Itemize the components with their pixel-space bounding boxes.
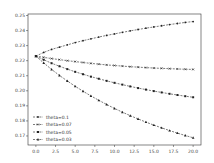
y-tick-label: 0.23 [15, 43, 25, 48]
y-tick-label: 0.19 [15, 103, 25, 108]
y-tick-label: 0.22 [15, 58, 25, 63]
legend-label: theta=0.1 [46, 115, 69, 120]
x-tick-label: 12.5 [129, 149, 139, 154]
y-tick-label: 0.21 [15, 73, 25, 78]
y-axis: 0.170.180.190.200.210.220.230.240.25 [15, 13, 28, 138]
x-tick-label: 0.0 [32, 149, 39, 154]
line-chart: 0.170.180.190.200.210.220.230.240.25 0.0… [0, 0, 214, 163]
x-tick-label: 10.0 [109, 149, 119, 154]
x-axis: 0.02.55.07.510.012.515.017.520.0 [32, 145, 198, 154]
legend-label: theta=0.03 [46, 137, 72, 142]
x-tick-label: 15.0 [149, 149, 159, 154]
x-tick-label: 17.5 [168, 149, 178, 154]
y-tick-label: 0.25 [15, 13, 25, 18]
x-tick-label: 20.0 [188, 149, 198, 154]
x-tick-label: 7.5 [91, 149, 98, 154]
y-tick-label: 0.20 [15, 88, 25, 93]
y-tick-label: 0.17 [15, 133, 25, 138]
legend-label: theta=0.07 [46, 122, 72, 127]
legend-label: theta=0.05 [46, 130, 72, 135]
y-tick-label: 0.18 [15, 118, 25, 123]
x-tick-label: 5.0 [72, 149, 79, 154]
x-tick-label: 2.5 [52, 149, 59, 154]
y-tick-label: 0.24 [15, 28, 25, 33]
